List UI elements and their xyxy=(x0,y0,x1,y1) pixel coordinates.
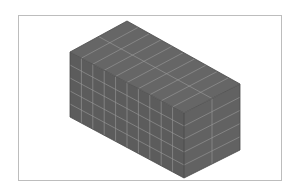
mesh-box-figure xyxy=(0,0,301,195)
